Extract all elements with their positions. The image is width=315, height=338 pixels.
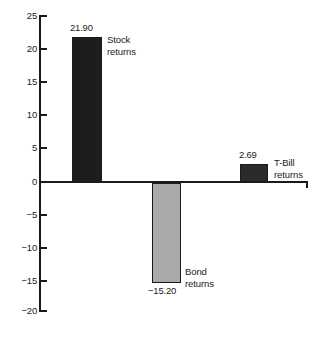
y-tick-label-15: 15	[3, 77, 37, 87]
y-tick--15	[41, 280, 47, 282]
y-tick-label--20: −20	[3, 306, 37, 316]
bar-series-label-stock-line1: Stock	[107, 34, 136, 46]
y-tick-15	[41, 81, 47, 83]
bar-series-label-bond: Bond returns	[185, 266, 214, 289]
bar-series-label-stock-line2: returns	[107, 46, 136, 58]
y-tick-label--5: −5	[3, 210, 37, 220]
y-tick-label-10: 10	[3, 110, 37, 120]
y-tick-label--10: −10	[3, 243, 37, 253]
bar-series-label-stock: Stock returns	[107, 34, 136, 57]
bar-bond-returns	[152, 183, 181, 283]
bar-series-label-bond-line2: returns	[185, 278, 214, 290]
y-tick-20	[41, 48, 47, 50]
bar-chart: 25 20 15 10 5 0 −5 −10 −15 −20 21.90 Sto…	[0, 0, 315, 338]
y-tick--10	[41, 247, 47, 249]
y-tick--5	[41, 214, 47, 216]
bar-series-label-tbill-line1: T-Bill	[274, 157, 303, 169]
y-tick-label-25: 25	[3, 11, 37, 21]
y-tick-label-5: 5	[3, 143, 37, 153]
y-tick-label--15: −15	[3, 276, 37, 286]
zero-baseline-end-cap	[306, 181, 308, 188]
bar-series-label-tbill-line2: returns	[274, 169, 303, 181]
y-tick-label-20: 20	[3, 44, 37, 54]
y-tick-25	[41, 15, 47, 17]
y-tick-label-0: 0	[3, 177, 37, 187]
y-tick-5	[41, 147, 47, 149]
y-tick-10	[41, 114, 47, 116]
bar-series-label-bond-line1: Bond	[185, 266, 214, 278]
bar-value-label-tbill: 2.69	[239, 150, 257, 160]
bar-stock-returns	[72, 37, 102, 182]
y-tick--20	[41, 310, 47, 312]
bar-tbill-returns	[240, 164, 268, 182]
bar-series-label-tbill: T-Bill returns	[274, 157, 303, 180]
bar-value-label-bond: −15.20	[148, 286, 176, 296]
y-axis-line	[39, 15, 41, 312]
bar-value-label-stock: 21.90	[70, 23, 93, 33]
